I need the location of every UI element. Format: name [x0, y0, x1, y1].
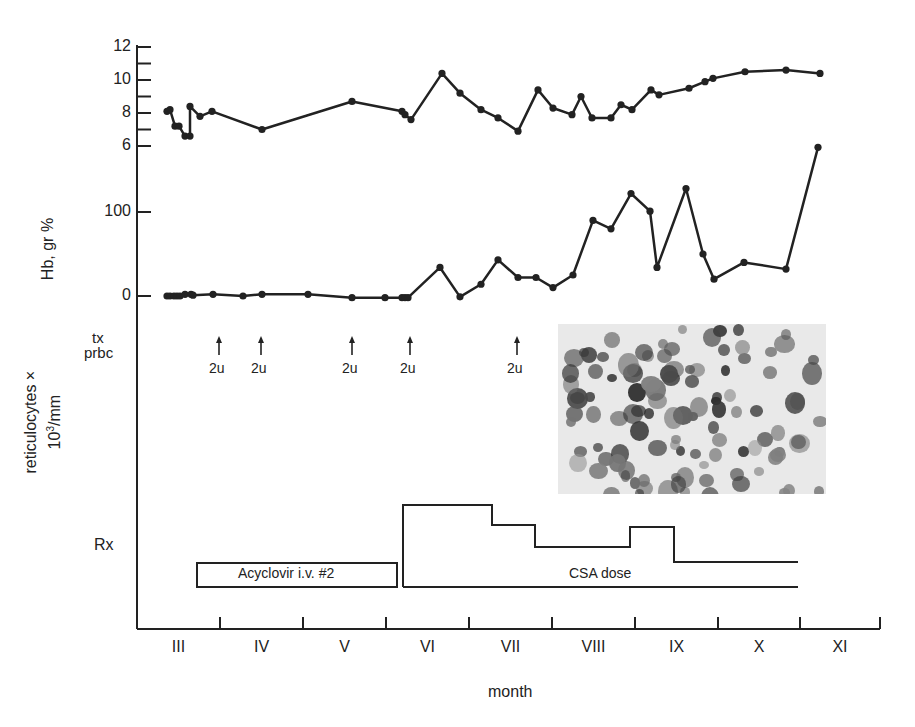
hb-tick-label: 8 — [91, 103, 131, 121]
series-line — [167, 147, 818, 297]
hb-axis-label: Hb, gr % — [39, 189, 57, 309]
data-point — [534, 86, 541, 93]
transfusion-units-label: 2u — [251, 360, 267, 376]
data-point — [514, 128, 521, 135]
data-point — [816, 70, 823, 77]
cell — [748, 440, 762, 456]
data-point — [175, 123, 182, 130]
data-point — [404, 294, 411, 301]
cell — [623, 404, 643, 424]
data-point — [438, 70, 445, 77]
data-point — [477, 106, 484, 113]
cell — [814, 486, 824, 494]
data-point — [589, 217, 596, 224]
cell — [774, 335, 795, 352]
cell — [709, 448, 722, 462]
hb-axis-ticks — [137, 47, 151, 146]
data-point — [782, 67, 789, 74]
cell — [738, 353, 751, 364]
retic-series — [163, 144, 821, 302]
hb-tick-label: 10 — [91, 70, 131, 88]
cell — [569, 454, 586, 472]
data-point — [782, 266, 789, 273]
cell — [763, 366, 778, 379]
data-point — [196, 113, 203, 120]
month-ticks — [220, 617, 880, 629]
rx-label: Rx — [94, 536, 114, 554]
retic-axis-ticks — [137, 212, 151, 296]
data-point — [166, 106, 173, 113]
data-point — [258, 291, 265, 298]
cell — [733, 324, 744, 336]
cell — [701, 487, 719, 494]
month-label: VI — [398, 638, 458, 656]
cell — [635, 489, 644, 494]
cell — [589, 463, 608, 479]
data-point — [494, 256, 501, 263]
transfusion-arrows — [216, 336, 520, 355]
acyclovir-label: Acyclovir i.v. #2 — [238, 565, 334, 581]
data-point — [569, 271, 576, 278]
retic-axis-label: reticulocytes × 103/mm — [21, 322, 65, 522]
cell — [699, 474, 713, 488]
transfusion-units-label: 2u — [507, 360, 523, 376]
cell — [664, 407, 683, 430]
cell — [588, 364, 603, 379]
cell — [718, 344, 730, 356]
cell — [562, 364, 579, 383]
cell — [585, 392, 595, 402]
data-point — [494, 114, 501, 121]
cell — [802, 362, 823, 385]
transfusion-units-label: 2u — [209, 360, 225, 376]
cell — [735, 340, 750, 355]
cell — [713, 325, 727, 338]
data-point — [577, 93, 584, 100]
cell — [670, 440, 679, 450]
data-point — [456, 293, 463, 300]
retic-axis-label-line1: reticulocytes × — [22, 371, 39, 474]
data-point — [348, 294, 355, 301]
arrow-head — [258, 336, 264, 343]
cell — [658, 339, 668, 349]
cell — [604, 332, 620, 348]
arrow-head — [216, 336, 222, 343]
data-point — [628, 106, 635, 113]
retic-axis-label-line2: 103/mm — [46, 395, 63, 449]
cell — [730, 468, 743, 481]
cell — [644, 408, 654, 419]
data-point — [407, 116, 414, 123]
data-point — [477, 281, 484, 288]
cell — [685, 365, 695, 374]
cell — [789, 434, 809, 453]
data-point — [304, 291, 311, 298]
cell — [607, 374, 617, 382]
data-point — [532, 274, 539, 281]
micrograph-inset — [558, 324, 826, 494]
data-point — [189, 292, 196, 299]
data-point — [607, 114, 614, 121]
month-label: III — [149, 638, 209, 656]
cell — [603, 487, 620, 494]
data-point — [682, 185, 689, 192]
transfusion-units-label: 2u — [342, 360, 358, 376]
cell — [597, 352, 609, 362]
data-point — [699, 250, 706, 257]
cell — [712, 401, 726, 418]
cell — [731, 406, 741, 418]
data-point — [627, 190, 634, 197]
data-point — [381, 294, 388, 301]
series-line — [167, 70, 820, 136]
cell — [671, 476, 687, 493]
data-point — [549, 284, 556, 291]
month-label: IV — [232, 638, 292, 656]
cell — [630, 477, 640, 488]
data-point — [741, 68, 748, 75]
data-point — [186, 103, 193, 110]
cell — [609, 454, 626, 472]
csa-dose-label: CSA dose — [569, 565, 631, 581]
cell — [648, 440, 666, 456]
data-point — [568, 111, 575, 118]
data-point — [607, 225, 614, 232]
cell — [771, 425, 784, 441]
data-point — [258, 126, 265, 133]
